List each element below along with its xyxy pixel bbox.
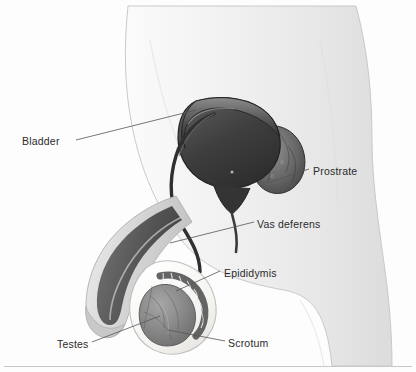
anatomy-illustration [0,0,416,372]
label-scrotum: Scrotum [228,338,269,349]
label-epididymis: Epididymis [224,268,277,279]
label-bladder: Bladder [22,136,60,147]
anatomy-figure: Bladder Prostrate Vas deferens Epididymi… [0,0,416,372]
bottom-rule [4,366,412,367]
label-testes: Testes [57,339,89,350]
label-vas-deferens: Vas deferens [257,219,321,230]
label-prostrate: Prostrate [313,166,357,177]
